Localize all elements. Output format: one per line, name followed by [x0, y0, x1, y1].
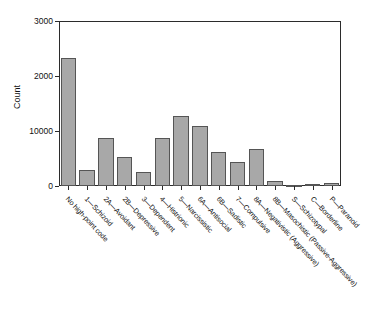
x-tick-mark — [125, 186, 126, 190]
bar — [173, 116, 188, 186]
bar-chart-figure: Count 01000020003000 No high-point code1… — [0, 0, 384, 335]
x-tick-mark — [219, 186, 220, 190]
x-tick-mark — [238, 186, 239, 190]
x-tick-mark — [68, 186, 69, 190]
x-tick-mark — [294, 186, 295, 190]
x-tick-mark — [200, 186, 201, 190]
x-tick-mark — [144, 186, 145, 190]
x-tick-mark — [256, 186, 257, 190]
bar — [230, 162, 245, 186]
x-tick-mark — [87, 186, 88, 190]
bar — [192, 126, 207, 186]
y-tick-label: 10000 — [8, 126, 53, 136]
x-tick-mark — [275, 186, 276, 190]
bar — [155, 138, 170, 186]
bar — [98, 138, 113, 186]
x-tick-mark — [162, 186, 163, 190]
bar — [61, 58, 76, 186]
bar — [79, 170, 94, 186]
y-tick-mark — [55, 186, 59, 187]
x-tick-mark — [332, 186, 333, 190]
y-tick-label: 3000 — [8, 16, 53, 26]
x-tick-mark — [181, 186, 182, 190]
bar — [211, 152, 226, 186]
y-tick-label: 0 — [8, 181, 53, 191]
y-tick-label: 2000 — [8, 71, 53, 81]
bar — [249, 149, 264, 186]
bar — [117, 157, 132, 186]
x-tick-mark — [313, 186, 314, 190]
bar — [136, 172, 151, 186]
x-tick-mark — [106, 186, 107, 190]
